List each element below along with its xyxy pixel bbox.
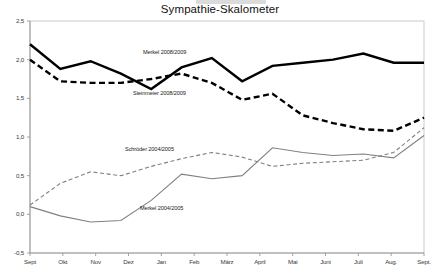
y-tick-label: 2,5 bbox=[2, 17, 24, 24]
x-tick-label: Sept. bbox=[404, 258, 440, 265]
y-tick-label: 1,0 bbox=[2, 133, 24, 140]
series-line-2 bbox=[30, 128, 424, 205]
chart-plot-area bbox=[0, 0, 440, 274]
y-tick-label: -0,5 bbox=[2, 249, 24, 256]
series-label-1: Steinmeier 2008/2009 bbox=[133, 90, 186, 96]
chart-root: Sympathie-Skalometer 2,52,01,51,00,50,0-… bbox=[0, 0, 440, 274]
series-line-0 bbox=[30, 44, 424, 89]
series-line-3 bbox=[30, 135, 424, 222]
series-label-2: Schröder 2004/2005 bbox=[125, 146, 174, 152]
y-tick-label: 1,5 bbox=[2, 94, 24, 101]
y-tick-label: 0,5 bbox=[2, 172, 24, 179]
series-label-3: Merkel 2004/2005 bbox=[140, 205, 183, 211]
y-tick-label: 2,0 bbox=[2, 56, 24, 63]
y-tick-label: 0,0 bbox=[2, 210, 24, 217]
series-label-0: Merkel 2008/2009 bbox=[143, 49, 186, 55]
